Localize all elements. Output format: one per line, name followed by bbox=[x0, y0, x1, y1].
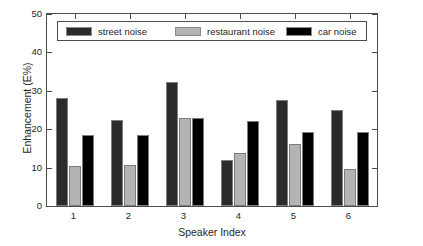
x-axis-tick-top bbox=[295, 14, 296, 19]
x-axis-tick-label: 2 bbox=[109, 210, 149, 221]
legend-swatch-icon bbox=[66, 27, 92, 36]
bar bbox=[344, 169, 356, 206]
x-axis-tick-top bbox=[185, 14, 186, 19]
bar bbox=[276, 100, 288, 206]
bar bbox=[357, 132, 369, 206]
x-axis-tick-top bbox=[240, 14, 241, 19]
y-axis-tick-right bbox=[372, 14, 377, 15]
legend-entry: car noise bbox=[286, 22, 357, 40]
bar bbox=[111, 120, 123, 206]
legend-label: street noise bbox=[98, 26, 147, 37]
x-axis-tick-top bbox=[130, 14, 131, 19]
y-axis-tick-label: 0 bbox=[12, 200, 42, 211]
y-axis-tick-label: 20 bbox=[12, 123, 42, 134]
x-axis-tick-label: 3 bbox=[164, 210, 204, 221]
bar bbox=[124, 165, 136, 206]
y-axis-tick-right bbox=[372, 168, 377, 169]
bar-chart-figure: Enhancement (E%) Speaker Index street no… bbox=[0, 0, 423, 246]
y-axis-tick-right bbox=[372, 206, 377, 207]
legend-swatch-icon bbox=[175, 27, 201, 36]
bar bbox=[179, 118, 191, 206]
bar bbox=[234, 153, 246, 206]
bar bbox=[166, 82, 178, 206]
x-axis-tick-label: 6 bbox=[329, 210, 369, 221]
y-axis-tick bbox=[47, 14, 52, 15]
y-axis-tick-label: 30 bbox=[12, 84, 42, 95]
bar bbox=[302, 132, 314, 206]
bar bbox=[247, 121, 259, 206]
legend-entry: street noise bbox=[66, 22, 147, 40]
y-axis-tick-label: 50 bbox=[12, 8, 42, 19]
x-axis-tick-top bbox=[350, 14, 351, 19]
bar bbox=[137, 135, 149, 206]
x-axis-tick-top bbox=[75, 14, 76, 19]
legend-swatch-icon bbox=[286, 27, 312, 36]
bar bbox=[69, 166, 81, 206]
plot-area bbox=[47, 14, 377, 206]
y-axis-tick bbox=[47, 91, 52, 92]
y-axis-tick-right bbox=[372, 52, 377, 53]
legend-label: car noise bbox=[318, 26, 357, 37]
bar bbox=[289, 144, 301, 206]
x-axis-tick-label: 4 bbox=[219, 210, 259, 221]
y-axis-tick-label: 40 bbox=[12, 46, 42, 57]
bar bbox=[331, 110, 343, 206]
y-axis-tick bbox=[47, 52, 52, 53]
legend-entry: restaurant noise bbox=[175, 22, 275, 40]
y-axis-tick-right bbox=[372, 129, 377, 130]
x-axis-title: Speaker Index bbox=[46, 226, 378, 238]
bar bbox=[56, 98, 68, 206]
plot-area-box bbox=[46, 13, 378, 207]
bar bbox=[192, 118, 204, 206]
y-axis-tick-label: 10 bbox=[12, 161, 42, 172]
legend-label: restaurant noise bbox=[207, 26, 275, 37]
y-axis-tick-right bbox=[372, 91, 377, 92]
bar bbox=[82, 135, 94, 206]
y-axis-tick bbox=[47, 206, 52, 207]
y-axis-tick bbox=[47, 168, 52, 169]
bar bbox=[221, 160, 233, 206]
x-axis-tick-label: 5 bbox=[274, 210, 314, 221]
y-axis-tick bbox=[47, 129, 52, 130]
x-axis-tick-label: 1 bbox=[54, 210, 94, 221]
chart-legend: street noiserestaurant noisecar noise bbox=[57, 21, 367, 41]
